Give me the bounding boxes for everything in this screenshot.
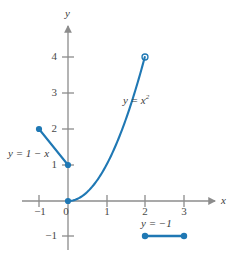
y-tick-label-1: 1 [41, 159, 57, 170]
annotation-parabola-label: y = x2 [123, 94, 149, 106]
y-tick-label-3: 3 [41, 87, 57, 98]
y-tick-label--1: −1 [34, 230, 57, 241]
x-tick-label-2: 2 [138, 206, 152, 217]
annotation-parabola-exponent: 2 [146, 93, 150, 101]
annotation-parabola-base: y = x [123, 94, 146, 106]
x-tick-label-0: 0 [59, 206, 73, 217]
parabola-final [68, 57, 145, 201]
x-axis-label: x [221, 195, 226, 206]
x-tick-label-1: 1 [100, 206, 114, 217]
piecewise-function-figure: −1 0 1 2 3 4 3 2 1 −1 y x y = 1 − x y = … [0, 0, 236, 260]
y-tick-label-4: 4 [41, 51, 57, 62]
annotation-constant-label: y = −1 [141, 218, 172, 229]
x-tick-label-3: 3 [177, 206, 191, 217]
y-axis-label: y [65, 8, 70, 19]
parabola-final-layer [0, 0, 236, 260]
y-tick-label-2: 2 [41, 123, 57, 134]
x-tick-label--1: −1 [31, 206, 49, 217]
annotation-line-label: y = 1 − x [8, 148, 49, 159]
